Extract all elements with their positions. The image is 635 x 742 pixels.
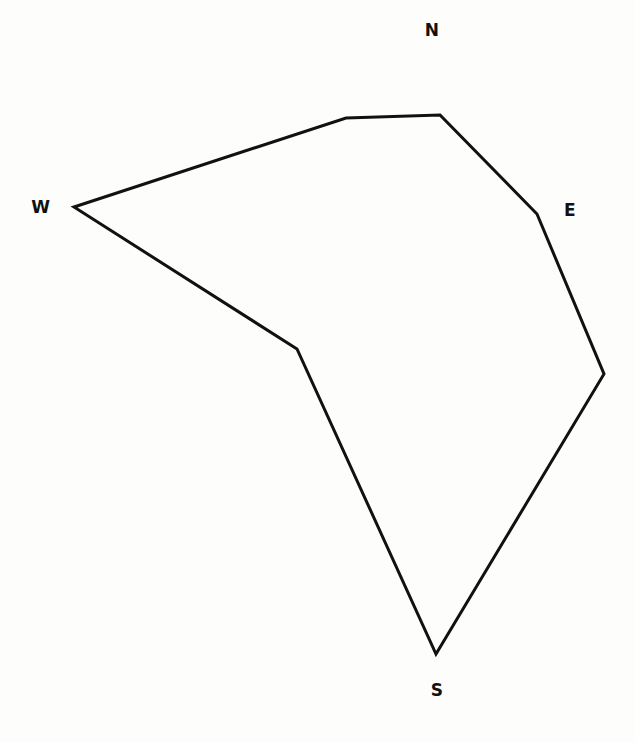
compass-label-west: W: [31, 199, 50, 216]
compass-label-east: E: [564, 202, 576, 219]
diagram-background: [0, 0, 635, 742]
polygon-diagram: [0, 0, 635, 742]
diagram-canvas: N E S W: [0, 0, 635, 742]
compass-label-north: N: [425, 22, 440, 39]
compass-label-south: S: [431, 682, 444, 699]
